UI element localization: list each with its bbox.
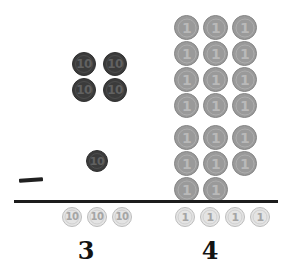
worksheet-canvas: 1010101010 111111111111 11111111 101010 …: [0, 0, 292, 273]
one-coin-upper-5: 1: [232, 41, 257, 66]
one-coin-lower-2: 1: [232, 125, 257, 150]
one-coin-upper-3: 1: [174, 41, 199, 66]
one-coin-lower-4: 1: [203, 151, 228, 176]
ten-coin-3: 10: [103, 78, 127, 102]
ten-coin-4: 10: [86, 150, 108, 172]
coin-denomination-label: 1: [182, 157, 191, 171]
answer-ten-coin-2: 10: [112, 207, 132, 227]
one-coin-lower-5: 1: [232, 151, 257, 176]
one-coin-upper-0: 1: [174, 15, 199, 40]
answer-ten-coin-1: 10: [87, 207, 107, 227]
one-coin-upper-2: 1: [232, 15, 257, 40]
coin-denomination-label: 1: [182, 47, 191, 61]
coin-denomination-label: 1: [240, 131, 249, 145]
one-coin-lower-6: 1: [174, 177, 199, 202]
coin-denomination-label: 1: [231, 212, 238, 223]
ten-coin-0: 10: [72, 52, 96, 76]
coin-denomination-label: 1: [240, 73, 249, 87]
coin-denomination-label: 1: [211, 99, 220, 113]
coin-denomination-label: 10: [76, 84, 92, 96]
answer-tens-numeral: 3: [66, 239, 106, 263]
coin-denomination-label: 10: [107, 84, 123, 96]
one-coin-lower-3: 1: [174, 151, 199, 176]
answer-ten-coin-0: 10: [62, 207, 82, 227]
coin-denomination-label: 1: [182, 183, 191, 197]
coin-denomination-label: 10: [107, 58, 123, 70]
one-coin-upper-11: 1: [232, 93, 257, 118]
answer-ones-numeral: 4: [190, 239, 230, 263]
coin-denomination-label: 1: [240, 21, 249, 35]
answer-one-coin-0: 1: [175, 207, 195, 227]
coin-denomination-label: 1: [211, 183, 220, 197]
ten-coin-2: 10: [72, 78, 96, 102]
coin-denomination-label: 10: [66, 212, 79, 222]
coin-denomination-label: 1: [181, 212, 188, 223]
tally-dash-mark: [19, 177, 43, 182]
coin-denomination-label: 1: [182, 99, 191, 113]
answer-one-coin-2: 1: [225, 207, 245, 227]
one-coin-upper-1: 1: [203, 15, 228, 40]
one-coin-lower-1: 1: [203, 125, 228, 150]
one-coin-upper-6: 1: [174, 67, 199, 92]
coin-denomination-label: 1: [182, 21, 191, 35]
coin-denomination-label: 10: [90, 156, 104, 167]
coin-denomination-label: 1: [211, 21, 220, 35]
one-coin-lower-7: 1: [203, 177, 228, 202]
coin-denomination-label: 1: [240, 47, 249, 61]
coin-denomination-label: 1: [240, 99, 249, 113]
one-coin-upper-7: 1: [203, 67, 228, 92]
coin-denomination-label: 10: [116, 212, 129, 222]
coin-denomination-label: 10: [91, 212, 104, 222]
one-coin-upper-9: 1: [174, 93, 199, 118]
coin-denomination-label: 1: [240, 157, 249, 171]
coin-denomination-label: 10: [76, 58, 92, 70]
coin-denomination-label: 1: [211, 47, 220, 61]
coin-denomination-label: 1: [211, 157, 220, 171]
answer-one-coin-3: 1: [250, 207, 270, 227]
horizontal-divider: [14, 200, 278, 203]
one-coin-lower-0: 1: [174, 125, 199, 150]
coin-denomination-label: 1: [182, 131, 191, 145]
one-coin-upper-4: 1: [203, 41, 228, 66]
coin-denomination-label: 1: [206, 212, 213, 223]
coin-denomination-label: 1: [182, 73, 191, 87]
coin-denomination-label: 1: [256, 212, 263, 223]
one-coin-upper-10: 1: [203, 93, 228, 118]
coin-denomination-label: 1: [211, 131, 220, 145]
coin-denomination-label: 1: [211, 73, 220, 87]
answer-one-coin-1: 1: [200, 207, 220, 227]
ten-coin-1: 10: [103, 52, 127, 76]
one-coin-upper-8: 1: [232, 67, 257, 92]
